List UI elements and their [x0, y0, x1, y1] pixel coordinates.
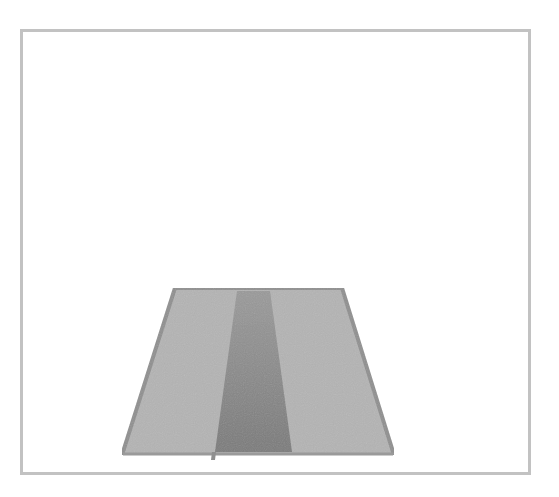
- image-scene: [0, 0, 559, 497]
- road-illustration: [0, 0, 559, 497]
